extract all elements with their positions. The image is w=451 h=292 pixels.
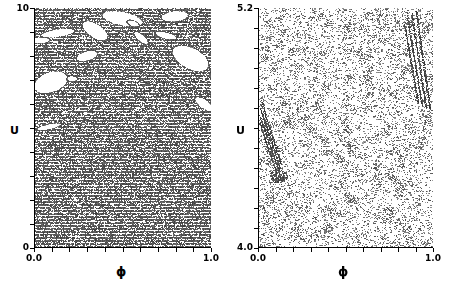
y-tick-mark xyxy=(30,152,34,153)
x-tick-mark xyxy=(158,248,159,252)
y-axis-title-right: U xyxy=(236,124,245,137)
x-tick-mark xyxy=(328,248,329,252)
x-tick-mark xyxy=(276,248,277,252)
y-tick-mark xyxy=(254,128,258,129)
plot-area-right: 5.2 4.0 0.0 1.0 xyxy=(258,8,433,248)
x-tick-mark xyxy=(211,248,212,252)
figure-two-panel-phase-space: U ϕ 10 0 0.0 1.0 U ϕ 5.2 xyxy=(0,0,451,292)
y-tick-mark xyxy=(30,176,34,177)
x-tick-mark xyxy=(381,248,382,252)
y-tick-label-bottom-right: 4.0 xyxy=(237,243,253,252)
y-tick-mark xyxy=(254,188,258,189)
y-tick-mark xyxy=(30,56,34,57)
y-tick-mark xyxy=(30,80,34,81)
y-axis-line-right xyxy=(258,8,259,248)
y-tick-mark xyxy=(30,200,34,201)
scatter-canvas-right xyxy=(258,8,433,248)
y-tick-label-top-right: 5.2 xyxy=(237,4,253,13)
y-tick-mark xyxy=(254,88,258,89)
y-tick-mark xyxy=(254,148,258,149)
x-tick-mark xyxy=(176,248,177,252)
panel-left: U ϕ 10 0 0.0 1.0 xyxy=(0,0,228,292)
x-tick-mark xyxy=(433,248,434,252)
y-tick-mark xyxy=(30,224,34,225)
y-tick-mark xyxy=(254,208,258,209)
y-tick-mark xyxy=(30,104,34,105)
panel-right: U ϕ 5.2 4.0 0.0 1.0 xyxy=(228,0,451,292)
y-tick-mark xyxy=(30,32,34,33)
x-tick-mark xyxy=(87,248,88,252)
x-axis-title-right: ϕ xyxy=(338,264,348,279)
x-tick-label-right-left: 1.0 xyxy=(203,254,219,263)
x-tick-mark xyxy=(34,248,35,252)
y-axis-title-left: U xyxy=(10,124,19,137)
y-axis-line-left xyxy=(34,8,35,248)
y-tick-label-bottom-left: 0 xyxy=(23,243,29,252)
x-tick-label-right-right: 1.0 xyxy=(425,254,441,263)
y-tick-label-top-left: 10 xyxy=(16,4,29,13)
y-tick-mark xyxy=(30,8,34,9)
x-tick-mark xyxy=(193,248,194,252)
x-tick-mark xyxy=(140,248,141,252)
x-tick-mark xyxy=(293,248,294,252)
x-tick-mark xyxy=(52,248,53,252)
x-tick-mark xyxy=(258,248,259,252)
y-tick-mark xyxy=(254,228,258,229)
x-tick-mark xyxy=(69,248,70,252)
x-tick-mark xyxy=(398,248,399,252)
x-tick-label-left-right: 0.0 xyxy=(250,254,266,263)
scatter-canvas-left xyxy=(34,8,211,248)
y-tick-mark xyxy=(254,68,258,69)
x-tick-mark xyxy=(346,248,347,252)
x-tick-mark xyxy=(363,248,364,252)
x-tick-mark xyxy=(105,248,106,252)
x-tick-label-left-left: 0.0 xyxy=(26,254,42,263)
plot-area-left: 10 0 0.0 1.0 xyxy=(34,8,211,248)
x-tick-mark xyxy=(416,248,417,252)
y-tick-mark xyxy=(254,28,258,29)
x-tick-mark xyxy=(123,248,124,252)
y-tick-mark xyxy=(30,128,34,129)
y-tick-mark xyxy=(254,108,258,109)
y-tick-mark xyxy=(254,168,258,169)
y-tick-mark xyxy=(254,48,258,49)
x-axis-title-left: ϕ xyxy=(116,264,126,279)
x-tick-mark xyxy=(311,248,312,252)
y-tick-mark xyxy=(254,8,258,9)
